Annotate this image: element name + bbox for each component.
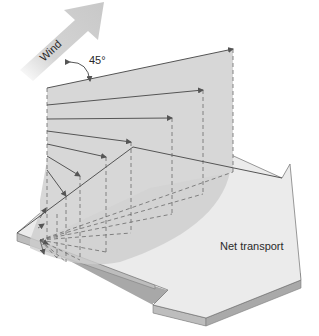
ekman-spiral-diagram: Wind 45° Net transport xyxy=(0,0,319,336)
angle-label: 45° xyxy=(89,54,106,66)
angle-arc xyxy=(70,62,90,81)
net-transport-label: Net transport xyxy=(220,240,284,252)
wind-arrow: Wind xyxy=(20,2,104,81)
